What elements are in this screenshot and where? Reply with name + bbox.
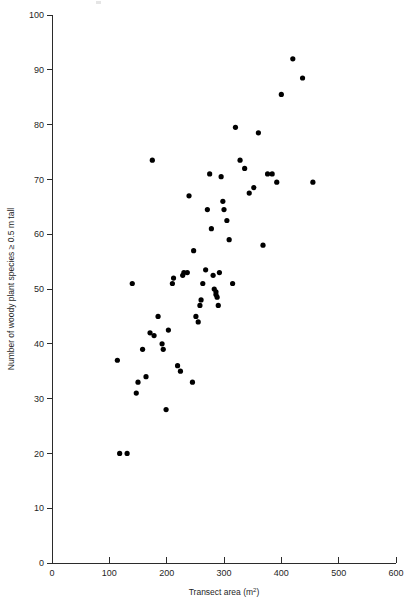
data-point — [161, 347, 166, 352]
data-point — [265, 171, 270, 176]
data-point — [185, 270, 190, 275]
data-point — [155, 314, 160, 319]
data-point — [117, 451, 122, 456]
data-point — [220, 199, 225, 204]
x-axis-title: Transect area (m2) — [189, 587, 260, 597]
data-point — [159, 341, 164, 346]
data-point — [200, 281, 205, 286]
data-point — [163, 407, 168, 412]
data-point — [203, 267, 208, 272]
data-point — [279, 92, 284, 97]
y-tick-label-70: 70 — [34, 175, 44, 185]
data-point — [197, 303, 202, 308]
data-point — [186, 193, 191, 198]
data-point — [230, 281, 235, 286]
data-point — [242, 166, 247, 171]
data-point — [290, 56, 295, 61]
data-point — [130, 281, 135, 286]
data-point — [191, 248, 196, 253]
y-tick-label-50: 50 — [34, 284, 44, 294]
y-axis-title: Number of woody plant species ≥ 0.5 m ta… — [6, 208, 16, 371]
data-point — [237, 158, 242, 163]
data-point — [125, 451, 130, 456]
data-point — [150, 158, 155, 163]
data-point — [227, 237, 232, 242]
data-points-group — [115, 56, 316, 456]
y-tick-label-60: 60 — [34, 229, 44, 239]
data-point — [209, 226, 214, 231]
x-tick-label-400: 400 — [274, 568, 289, 578]
data-point — [196, 319, 201, 324]
data-point — [274, 180, 279, 185]
data-point — [221, 207, 226, 212]
data-point — [171, 275, 176, 280]
y-tick-label-30: 30 — [34, 394, 44, 404]
y-tick-label-40: 40 — [34, 339, 44, 349]
data-point — [134, 391, 139, 396]
y-tick-label-20: 20 — [34, 449, 44, 459]
y-tick-label-0: 0 — [39, 558, 44, 568]
data-point — [215, 295, 220, 300]
data-point — [143, 374, 148, 379]
data-point — [193, 314, 198, 319]
data-point — [198, 297, 203, 302]
data-point — [211, 273, 216, 278]
x-tick-label-100: 100 — [102, 568, 117, 578]
data-point — [166, 328, 171, 333]
data-point — [224, 218, 229, 223]
data-point — [251, 185, 256, 190]
data-point — [233, 125, 238, 130]
y-tick-label-80: 80 — [34, 120, 44, 130]
data-point — [115, 358, 120, 363]
data-point — [260, 243, 265, 248]
plot-canvas: 0102030405060708090100010020030040050060… — [0, 0, 420, 612]
x-tick-label-600: 600 — [388, 568, 403, 578]
data-point — [256, 130, 261, 135]
data-point — [175, 363, 180, 368]
data-point — [207, 171, 212, 176]
x-tick-label-200: 200 — [159, 568, 174, 578]
data-point — [310, 180, 315, 185]
data-point — [300, 75, 305, 80]
scan-artifact — [96, 1, 101, 4]
x-tick-label-300: 300 — [216, 568, 231, 578]
x-tick-label-0: 0 — [49, 568, 54, 578]
data-point — [216, 303, 221, 308]
data-point — [247, 191, 252, 196]
data-point — [178, 369, 183, 374]
x-tick-label-500: 500 — [331, 568, 346, 578]
y-tick-label-100: 100 — [29, 10, 44, 20]
data-point — [205, 207, 210, 212]
data-point — [217, 270, 222, 275]
data-point — [140, 347, 145, 352]
data-point — [190, 380, 195, 385]
data-point — [135, 380, 140, 385]
data-point — [170, 281, 175, 286]
scatter-plot-figure: 0102030405060708090100010020030040050060… — [0, 0, 420, 612]
axis-titles-group: Transect area (m2)Number of woody plant … — [6, 208, 259, 597]
y-tick-label-10: 10 — [34, 503, 44, 513]
y-tick-label-90: 90 — [34, 65, 44, 75]
data-point — [270, 171, 275, 176]
data-point — [219, 174, 224, 179]
data-point — [151, 333, 156, 338]
